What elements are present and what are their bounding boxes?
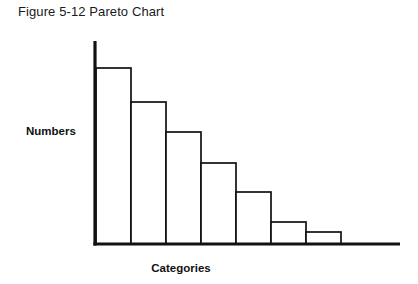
bar-5 — [236, 192, 271, 244]
pareto-chart-figure: Figure 5-12 Pareto Chart Numbers Categor… — [0, 0, 418, 284]
y-axis-label: Numbers — [26, 125, 76, 137]
bar-7 — [306, 232, 341, 244]
pareto-chart-graphic: Numbers Categories — [0, 0, 418, 284]
bar-2 — [131, 102, 166, 244]
bars-group — [96, 68, 341, 244]
bar-3 — [166, 132, 201, 244]
x-axis-label: Categories — [151, 262, 210, 274]
bar-4 — [201, 163, 236, 244]
bar-1 — [96, 68, 131, 244]
bar-6 — [271, 222, 306, 244]
